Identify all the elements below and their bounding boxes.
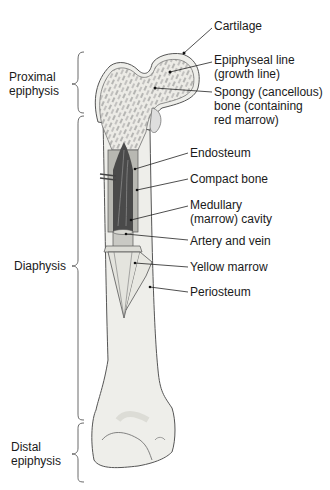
callout-medullary-cavity: Medullary (marrow) cavity [190, 198, 272, 226]
callout-endosteum: Endosteum [190, 146, 251, 160]
femur-shape [92, 53, 199, 467]
region-braces [72, 52, 84, 482]
callout-cartilage: Cartilage [214, 19, 262, 33]
callout-periosteum: Periosteum [190, 285, 251, 299]
region-label-proximal-epiphysis: Proximal epiphysis [9, 70, 59, 98]
region-label-diaphysis: Diaphysis [14, 259, 66, 273]
callout-yellow-marrow: Yellow marrow [190, 260, 268, 274]
region-label-distal-epiphysis: Distal epiphysis [11, 440, 61, 468]
callout-compact-bone: Compact bone [190, 172, 268, 186]
callout-spongy-bone: Spongy (cancellous) bone (containing red… [214, 85, 323, 127]
callout-epiphyseal-line: Epiphyseal line (growth line) [214, 53, 295, 81]
callout-artery-vein: Artery and vein [190, 234, 271, 248]
